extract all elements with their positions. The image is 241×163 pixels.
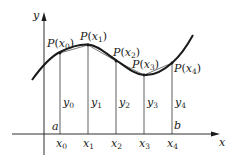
trapezoid-rule-diagram: y x P(x0) P(x1) P(x2) P(x3) P(x4) y0 y1 … (0, 0, 241, 163)
point-marker-4 (171, 62, 174, 65)
axes: y x (12, 9, 226, 155)
interval-end-label: b (174, 119, 181, 132)
point-marker-2 (115, 60, 118, 63)
ordinate-label-2: y2 (118, 96, 130, 110)
ordinate-labels: y0 y1 y2 y3 y4 (62, 96, 186, 110)
ordinate-label-1: y1 (90, 96, 102, 110)
point-marker-1 (87, 44, 90, 47)
abscissa-label-3: x3 (139, 137, 150, 151)
ordinate-label-3: y3 (146, 96, 158, 110)
abscissa-label-4: x4 (167, 137, 178, 151)
point-marker-3 (143, 74, 146, 77)
point-label-0: P(x0) (46, 37, 74, 51)
abscissa-label-2: x2 (111, 137, 122, 151)
abscissa-label-0: x0 (56, 137, 67, 151)
x-axis-label: x (219, 136, 226, 149)
ordinate-label-0: y0 (62, 96, 74, 110)
point-label-4: P(x4) (173, 62, 201, 76)
abscissa-labels: x0 x1 x2 x3 x4 (56, 137, 178, 151)
point-label-1: P(x1) (79, 30, 107, 44)
point-marker-0 (59, 52, 62, 55)
point-labels: P(x0) P(x1) P(x2) P(x3) P(x4) (46, 30, 201, 76)
interval-start-label: a (52, 120, 59, 133)
ordinate-label-4: y4 (174, 96, 186, 110)
y-axis-arrow-icon (42, 12, 47, 21)
y-axis-label: y (32, 9, 40, 22)
abscissa-label-1: x1 (83, 137, 94, 151)
point-label-3: P(x3) (131, 58, 159, 72)
